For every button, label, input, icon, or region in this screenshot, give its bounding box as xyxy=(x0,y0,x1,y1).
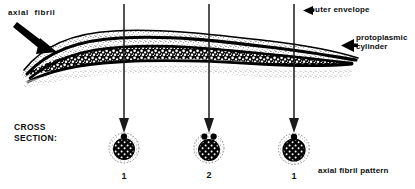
label-cross-section: CROSSSECTION: xyxy=(14,122,57,143)
figure-canvas: axial fibril outer envelope protoplasmic… xyxy=(0,0,415,189)
cross-section-number-1: 1 xyxy=(114,171,134,181)
axial-fibril-dot xyxy=(201,134,207,140)
cross-section-2 xyxy=(194,133,224,163)
label-protoplasmic-cylinder-line2: cylinder xyxy=(356,42,387,51)
cross-section-number-2: 2 xyxy=(199,170,219,180)
label-cross-section-line2: SECTION: xyxy=(14,133,57,143)
axial-fibril-dot xyxy=(121,133,127,139)
label-protoplasmic-cylinder: protoplasmiccylinder xyxy=(356,33,407,51)
cross-section-3 xyxy=(279,134,310,165)
axial-fibril-dot xyxy=(291,134,297,140)
label-cross-section-line1: CROSS xyxy=(14,122,46,132)
cross-section-number-3: 1 xyxy=(284,171,304,181)
label-axial-fibril: axial fibril xyxy=(8,8,55,17)
cross-section-1 xyxy=(109,133,139,163)
label-outer-envelope: outer envelope xyxy=(310,5,370,14)
label-axial-fibril-pattern: axial fibril pattern xyxy=(318,166,389,175)
cross-section-layer xyxy=(0,0,415,189)
label-protoplasmic-cylinder-line1: protoplasmic xyxy=(356,33,407,42)
axial-fibril-dot xyxy=(211,134,217,140)
